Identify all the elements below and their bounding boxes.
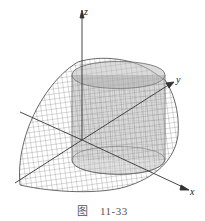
caption-number: 11-33 (100, 205, 128, 217)
figure-caption: 图 11-33 (0, 202, 205, 218)
z-axis-label: z (84, 6, 88, 17)
surface-figure (0, 0, 205, 195)
y-axis-label: y (176, 74, 180, 85)
caption-prefix: 图 (77, 205, 89, 217)
x-axis-label: x (190, 186, 194, 197)
